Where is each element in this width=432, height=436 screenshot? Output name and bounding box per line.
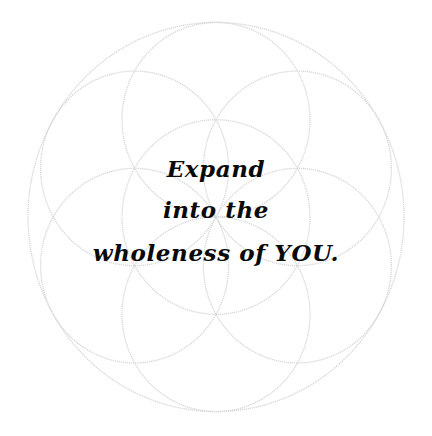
- quote-line-1: Expand: [0, 157, 432, 180]
- quote-line-2: into the: [0, 198, 432, 221]
- quote-line-3: wholeness of YOU.: [0, 241, 432, 264]
- quote-graphic: Expand into the wholeness of YOU.: [0, 0, 432, 436]
